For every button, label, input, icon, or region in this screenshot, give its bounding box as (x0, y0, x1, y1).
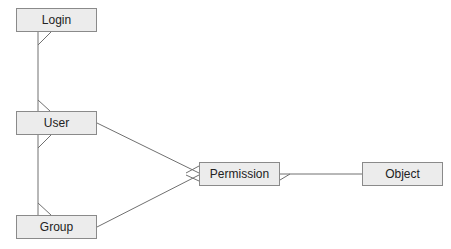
entity-label: Login (42, 13, 71, 27)
edge-group-permission (97, 175, 199, 227)
entity-group[interactable]: Group (16, 215, 97, 239)
entity-permission[interactable]: Permission (199, 162, 280, 186)
entity-label: Permission (210, 167, 269, 181)
entity-object[interactable]: Object (362, 162, 443, 186)
entity-label: Group (40, 220, 73, 234)
entity-label: User (44, 116, 69, 130)
entity-label: Object (385, 167, 420, 181)
edge-user-permission (97, 123, 199, 173)
entity-user[interactable]: User (16, 111, 97, 135)
entity-login[interactable]: Login (16, 8, 97, 32)
